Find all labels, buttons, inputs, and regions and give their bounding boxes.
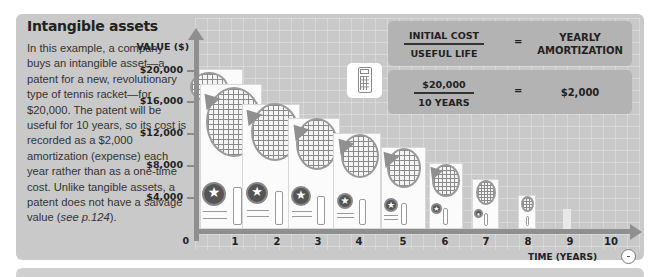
document-lines-icon [203, 211, 227, 219]
page-reference: see p.124 [61, 211, 110, 223]
x-tick-2: 2 [267, 236, 287, 247]
y-tick-12000: $12,000 [133, 127, 183, 138]
racket-handle-icon [317, 196, 325, 225]
formula-numerator: INITIAL COST [398, 30, 490, 41]
racket-handle-icon [401, 203, 407, 225]
x-tick-1: 1 [225, 236, 245, 247]
racket-handle-icon [275, 191, 283, 225]
racket-handle-icon [526, 216, 529, 226]
example-denominator: 10 YEARS [398, 97, 490, 108]
y-axis-title: VALUE ($) [133, 41, 189, 52]
racket-handle-icon [233, 187, 242, 225]
formula-definition-box: INITIAL COST USEFUL LIFE = YEARLY AMORTI… [388, 21, 632, 66]
patent-seal-icon [246, 182, 268, 204]
result-line-2: AMORTIZATION [530, 44, 630, 57]
racket-handle-icon [484, 213, 488, 226]
x-tick-9: 9 [560, 236, 580, 247]
x-axis-arrow-icon [630, 224, 642, 240]
fraction-bar [404, 43, 484, 45]
document-lines-icon [384, 215, 398, 220]
x-tick-10: 10 [601, 236, 621, 247]
formula-denominator: USEFUL LIFE [398, 48, 490, 59]
y-tick-8000: $8,000 [133, 159, 183, 170]
y-axis [194, 38, 199, 241]
patent-seal-icon [474, 209, 483, 218]
y-tick-4000: $4,000 [133, 191, 183, 202]
y-tick-20000: $20,000 [133, 64, 183, 75]
x-tick-7: 7 [476, 236, 496, 247]
equals-sign: = [514, 85, 522, 96]
calculator-icon [347, 63, 382, 98]
y-axis-arrow-icon [188, 28, 204, 40]
document-lines-icon [247, 210, 269, 217]
y-tick-16000: $16,000 [133, 95, 183, 106]
x-axis-title: TIME (YEARS) [528, 252, 597, 262]
description-end: ). [110, 211, 117, 223]
racket-head-icon [521, 196, 534, 212]
x-axis [194, 229, 634, 234]
result-line-1: YEARLY [530, 31, 630, 44]
x-tick-5: 5 [393, 236, 413, 247]
x-tick-8: 8 [518, 236, 538, 247]
document-lines-icon [292, 211, 312, 217]
equals-sign: = [514, 36, 522, 47]
fraction-bar [414, 92, 474, 94]
patent-seal-icon [202, 182, 226, 206]
x-tick-3: 3 [308, 236, 328, 247]
formula-result: YEARLY AMORTIZATION [530, 31, 630, 57]
clock-icon [621, 249, 636, 264]
document-lines-icon [337, 213, 354, 218]
racket-handle-icon [443, 208, 448, 225]
example-numerator: $20,000 [398, 79, 490, 90]
x-tick-4: 4 [349, 236, 369, 247]
value-bar-year-9 [563, 209, 571, 229]
x-tick-6: 6 [435, 236, 455, 247]
next-panel-edge [16, 268, 644, 277]
patent-seal-icon [291, 186, 311, 206]
y-tick-0: 0 [133, 235, 189, 246]
patent-seal-icon [337, 193, 353, 209]
patent-seal-icon [431, 203, 442, 214]
racket-head-icon [476, 180, 496, 205]
panel-title: Intangible assets [27, 18, 158, 34]
example-result: $2,000 [530, 86, 630, 99]
racket-handle-icon [359, 199, 366, 225]
patent-seal-icon [384, 198, 398, 212]
formula-example-box: $20,000 10 YEARS = $2,000 [388, 70, 632, 114]
